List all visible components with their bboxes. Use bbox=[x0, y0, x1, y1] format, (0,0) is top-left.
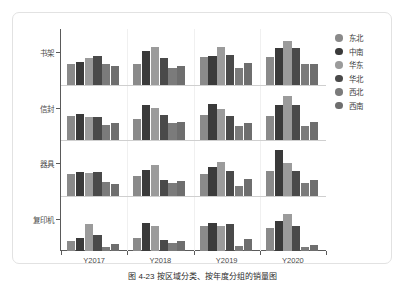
bar[interactable] bbox=[208, 104, 216, 140]
legend-item[interactable]: 华北 bbox=[335, 72, 393, 86]
bar[interactable] bbox=[93, 117, 101, 140]
bar[interactable] bbox=[301, 64, 309, 85]
bar[interactable] bbox=[67, 64, 75, 84]
bar[interactable] bbox=[200, 115, 208, 140]
bar[interactable] bbox=[93, 56, 101, 84]
bar[interactable] bbox=[142, 223, 150, 251]
bar[interactable] bbox=[266, 171, 274, 196]
bar[interactable] bbox=[275, 221, 283, 251]
bar[interactable] bbox=[168, 68, 176, 84]
bar[interactable] bbox=[111, 123, 119, 140]
bar[interactable] bbox=[283, 41, 291, 85]
bar[interactable] bbox=[177, 122, 185, 140]
bar[interactable] bbox=[292, 226, 300, 251]
bar[interactable] bbox=[133, 119, 141, 140]
bar[interactable] bbox=[160, 115, 168, 140]
bar[interactable] bbox=[217, 226, 225, 251]
bar[interactable] bbox=[310, 122, 318, 140]
bar[interactable] bbox=[208, 167, 216, 195]
bar[interactable] bbox=[283, 214, 291, 251]
bar[interactable] bbox=[226, 224, 234, 251]
bar[interactable] bbox=[133, 176, 141, 195]
bar[interactable] bbox=[226, 116, 234, 140]
bar[interactable] bbox=[244, 179, 252, 195]
bar[interactable] bbox=[85, 173, 93, 195]
bar[interactable] bbox=[168, 243, 176, 251]
bar[interactable] bbox=[310, 180, 318, 196]
bar[interactable] bbox=[102, 64, 110, 84]
bar[interactable] bbox=[142, 170, 150, 195]
bar[interactable] bbox=[217, 109, 225, 140]
bar[interactable] bbox=[310, 245, 318, 251]
bar[interactable] bbox=[292, 48, 300, 85]
legend-item[interactable]: 华东 bbox=[335, 58, 393, 72]
bar[interactable] bbox=[142, 51, 150, 85]
bar[interactable] bbox=[151, 108, 159, 140]
legend-item[interactable]: 中南 bbox=[335, 45, 393, 59]
bar[interactable] bbox=[217, 47, 225, 85]
bar[interactable] bbox=[301, 183, 309, 196]
bar[interactable] bbox=[301, 247, 309, 251]
bar[interactable] bbox=[133, 64, 141, 84]
bar[interactable] bbox=[111, 66, 119, 85]
bar[interactable] bbox=[67, 116, 75, 140]
bar[interactable] bbox=[177, 241, 185, 251]
legend-item[interactable]: 东北 bbox=[335, 31, 393, 45]
bar[interactable] bbox=[292, 171, 300, 195]
bar[interactable] bbox=[235, 246, 243, 251]
bar[interactable] bbox=[160, 240, 168, 251]
bar[interactable] bbox=[266, 116, 274, 140]
bar[interactable] bbox=[151, 226, 159, 251]
bar[interactable] bbox=[266, 228, 274, 251]
bar[interactable] bbox=[102, 125, 110, 140]
bar[interactable] bbox=[160, 58, 168, 85]
bar[interactable] bbox=[151, 47, 159, 85]
bar[interactable] bbox=[235, 186, 243, 195]
bar[interactable] bbox=[200, 174, 208, 195]
bar[interactable] bbox=[85, 224, 93, 251]
bar[interactable] bbox=[283, 96, 291, 140]
bar[interactable] bbox=[208, 223, 216, 251]
bar[interactable] bbox=[151, 165, 159, 195]
bar[interactable] bbox=[217, 162, 225, 196]
bar[interactable] bbox=[85, 117, 93, 140]
bar[interactable] bbox=[76, 238, 84, 251]
bar[interactable] bbox=[177, 66, 185, 85]
bar[interactable] bbox=[93, 172, 101, 196]
bar[interactable] bbox=[168, 123, 176, 140]
bar[interactable] bbox=[200, 226, 208, 251]
bar[interactable] bbox=[275, 150, 283, 196]
bar[interactable] bbox=[160, 180, 168, 195]
bar[interactable] bbox=[292, 105, 300, 140]
bar[interactable] bbox=[200, 57, 208, 84]
bar[interactable] bbox=[102, 247, 110, 251]
bar[interactable] bbox=[76, 62, 84, 84]
bar[interactable] bbox=[226, 55, 234, 84]
bar[interactable] bbox=[208, 56, 216, 85]
bar[interactable] bbox=[266, 57, 274, 85]
bar[interactable] bbox=[67, 174, 75, 196]
bar[interactable] bbox=[168, 183, 176, 195]
bar[interactable] bbox=[177, 181, 185, 196]
bar[interactable] bbox=[235, 68, 243, 84]
bar[interactable] bbox=[102, 182, 110, 195]
bar[interactable] bbox=[76, 114, 84, 140]
bar[interactable] bbox=[111, 184, 119, 195]
bar[interactable] bbox=[111, 244, 119, 251]
bar[interactable] bbox=[133, 238, 141, 251]
bar[interactable] bbox=[142, 105, 150, 140]
bar[interactable] bbox=[283, 163, 291, 196]
legend-item[interactable]: 西南 bbox=[335, 99, 393, 113]
bar[interactable] bbox=[275, 48, 283, 84]
bar[interactable] bbox=[244, 239, 252, 251]
bar[interactable] bbox=[76, 172, 84, 196]
bar[interactable] bbox=[93, 235, 101, 251]
bar[interactable] bbox=[244, 63, 252, 85]
bar[interactable] bbox=[85, 58, 93, 84]
bar[interactable] bbox=[275, 105, 283, 140]
bar[interactable] bbox=[244, 123, 252, 140]
legend-item[interactable]: 西北 bbox=[335, 85, 393, 99]
bar[interactable] bbox=[235, 126, 243, 140]
bar[interactable] bbox=[310, 64, 318, 84]
bar[interactable] bbox=[67, 241, 75, 251]
